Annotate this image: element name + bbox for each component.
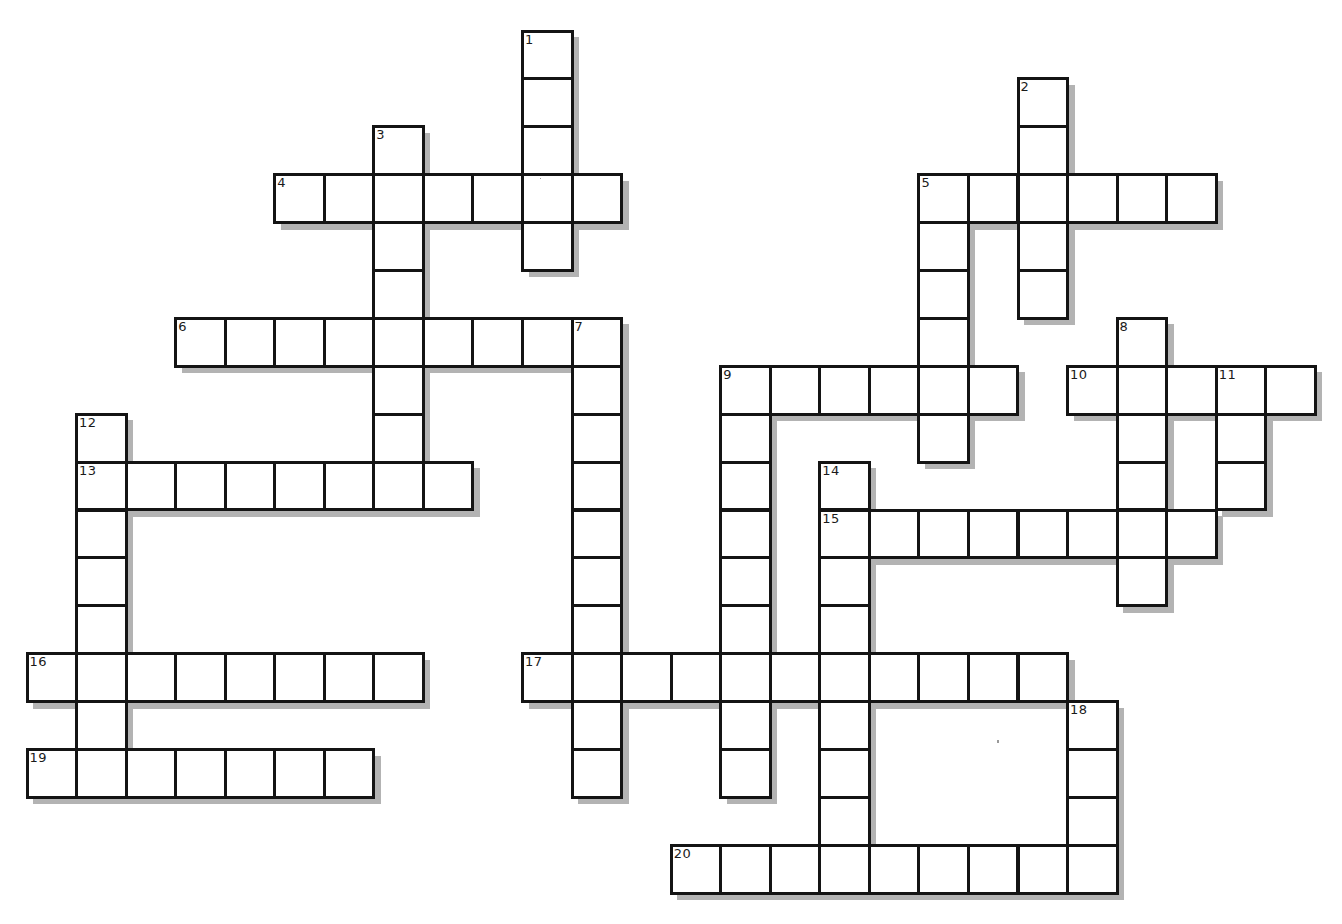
crossword-cell[interactable] bbox=[967, 509, 1020, 560]
crossword-cell[interactable] bbox=[571, 652, 624, 703]
crossword-cell[interactable] bbox=[818, 700, 871, 751]
crossword-cell[interactable] bbox=[1215, 413, 1268, 464]
crossword-cell[interactable] bbox=[967, 365, 1020, 416]
crossword-cell[interactable] bbox=[1017, 509, 1070, 560]
crossword-cell[interactable] bbox=[571, 461, 624, 512]
crossword-cell[interactable] bbox=[273, 748, 326, 799]
crossword-cell[interactable]: 11 bbox=[1215, 365, 1268, 416]
crossword-cell[interactable] bbox=[224, 748, 277, 799]
crossword-cell[interactable] bbox=[1165, 509, 1218, 560]
crossword-cell[interactable]: 19 bbox=[26, 748, 79, 799]
crossword-cell[interactable] bbox=[917, 413, 970, 464]
crossword-cell[interactable] bbox=[174, 652, 227, 703]
crossword-cell[interactable] bbox=[471, 317, 524, 368]
crossword-cell[interactable] bbox=[1116, 173, 1169, 224]
crossword-cell[interactable]: 7 bbox=[571, 317, 624, 368]
crossword-cell[interactable] bbox=[372, 652, 425, 703]
crossword-cell[interactable] bbox=[1165, 173, 1218, 224]
crossword-cell[interactable] bbox=[1264, 365, 1317, 416]
crossword-cell[interactable] bbox=[917, 509, 970, 560]
crossword-cell[interactable] bbox=[719, 844, 772, 895]
crossword-cell[interactable] bbox=[571, 604, 624, 655]
crossword-cell[interactable] bbox=[917, 317, 970, 368]
crossword-cell[interactable] bbox=[719, 509, 772, 560]
crossword-cell[interactable] bbox=[1116, 556, 1169, 607]
crossword-cell[interactable] bbox=[174, 461, 227, 512]
crossword-cell[interactable]: 9 bbox=[719, 365, 772, 416]
crossword-cell[interactable] bbox=[719, 461, 772, 512]
crossword-cell[interactable] bbox=[1066, 748, 1119, 799]
crossword-cell[interactable] bbox=[917, 269, 970, 320]
crossword-cell[interactable] bbox=[571, 556, 624, 607]
crossword-cell[interactable] bbox=[917, 652, 970, 703]
crossword-cell[interactable] bbox=[75, 748, 128, 799]
crossword-cell[interactable]: 4 bbox=[273, 173, 326, 224]
crossword-cell[interactable] bbox=[769, 365, 822, 416]
crossword-cell[interactable] bbox=[273, 461, 326, 512]
crossword-cell[interactable] bbox=[868, 652, 921, 703]
crossword-cell[interactable]: 5 bbox=[917, 173, 970, 224]
crossword-cell[interactable] bbox=[521, 125, 574, 176]
crossword-cell[interactable] bbox=[323, 461, 376, 512]
crossword-cell[interactable]: 13 bbox=[75, 461, 128, 512]
crossword-cell[interactable] bbox=[372, 413, 425, 464]
crossword-cell[interactable] bbox=[521, 173, 574, 224]
crossword-cell[interactable]: 3 bbox=[372, 125, 425, 176]
crossword-cell[interactable] bbox=[818, 556, 871, 607]
crossword-cell[interactable] bbox=[273, 652, 326, 703]
crossword-cell[interactable] bbox=[174, 748, 227, 799]
crossword-cell[interactable] bbox=[571, 413, 624, 464]
crossword-cell[interactable]: 17 bbox=[521, 652, 574, 703]
crossword-cell[interactable] bbox=[125, 461, 178, 512]
crossword-cell[interactable] bbox=[818, 796, 871, 847]
crossword-cell[interactable] bbox=[571, 509, 624, 560]
crossword-cell[interactable] bbox=[224, 652, 277, 703]
crossword-cell[interactable] bbox=[719, 604, 772, 655]
crossword-cell[interactable] bbox=[868, 844, 921, 895]
crossword-cell[interactable]: 16 bbox=[26, 652, 79, 703]
crossword-cell[interactable]: 18 bbox=[1066, 700, 1119, 751]
crossword-cell[interactable] bbox=[422, 173, 475, 224]
crossword-cell[interactable] bbox=[769, 652, 822, 703]
crossword-cell[interactable] bbox=[1116, 413, 1169, 464]
crossword-cell[interactable] bbox=[323, 748, 376, 799]
crossword-cell[interactable] bbox=[1017, 173, 1070, 224]
crossword-cell[interactable] bbox=[620, 652, 673, 703]
crossword-cell[interactable] bbox=[125, 652, 178, 703]
crossword-cell[interactable]: 15 bbox=[818, 509, 871, 560]
crossword-cell[interactable] bbox=[719, 556, 772, 607]
crossword-cell[interactable] bbox=[818, 748, 871, 799]
crossword-cell[interactable] bbox=[571, 365, 624, 416]
crossword-cell[interactable] bbox=[75, 652, 128, 703]
crossword-cell[interactable] bbox=[372, 173, 425, 224]
crossword-cell[interactable] bbox=[719, 748, 772, 799]
crossword-cell[interactable] bbox=[372, 365, 425, 416]
crossword-cell[interactable] bbox=[372, 317, 425, 368]
crossword-cell[interactable] bbox=[571, 748, 624, 799]
crossword-cell[interactable] bbox=[372, 269, 425, 320]
crossword-cell[interactable] bbox=[1165, 365, 1218, 416]
crossword-cell[interactable] bbox=[1116, 461, 1169, 512]
crossword-cell[interactable] bbox=[224, 461, 277, 512]
crossword-cell[interactable] bbox=[1017, 652, 1070, 703]
crossword-cell[interactable] bbox=[1066, 796, 1119, 847]
crossword-cell[interactable] bbox=[571, 700, 624, 751]
crossword-cell[interactable] bbox=[719, 413, 772, 464]
crossword-cell[interactable] bbox=[1116, 509, 1169, 560]
crossword-cell[interactable] bbox=[818, 844, 871, 895]
crossword-cell[interactable] bbox=[521, 221, 574, 272]
crossword-cell[interactable] bbox=[917, 844, 970, 895]
crossword-cell[interactable] bbox=[1017, 125, 1070, 176]
crossword-cell[interactable] bbox=[818, 652, 871, 703]
crossword-cell[interactable] bbox=[323, 317, 376, 368]
crossword-cell[interactable] bbox=[917, 365, 970, 416]
crossword-cell[interactable] bbox=[1017, 269, 1070, 320]
crossword-cell[interactable] bbox=[1116, 365, 1169, 416]
crossword-cell[interactable] bbox=[1066, 173, 1119, 224]
crossword-cell[interactable] bbox=[1215, 461, 1268, 512]
crossword-cell[interactable] bbox=[967, 173, 1020, 224]
crossword-cell[interactable] bbox=[471, 173, 524, 224]
crossword-cell[interactable] bbox=[323, 652, 376, 703]
crossword-cell[interactable] bbox=[868, 365, 921, 416]
crossword-cell[interactable] bbox=[769, 844, 822, 895]
